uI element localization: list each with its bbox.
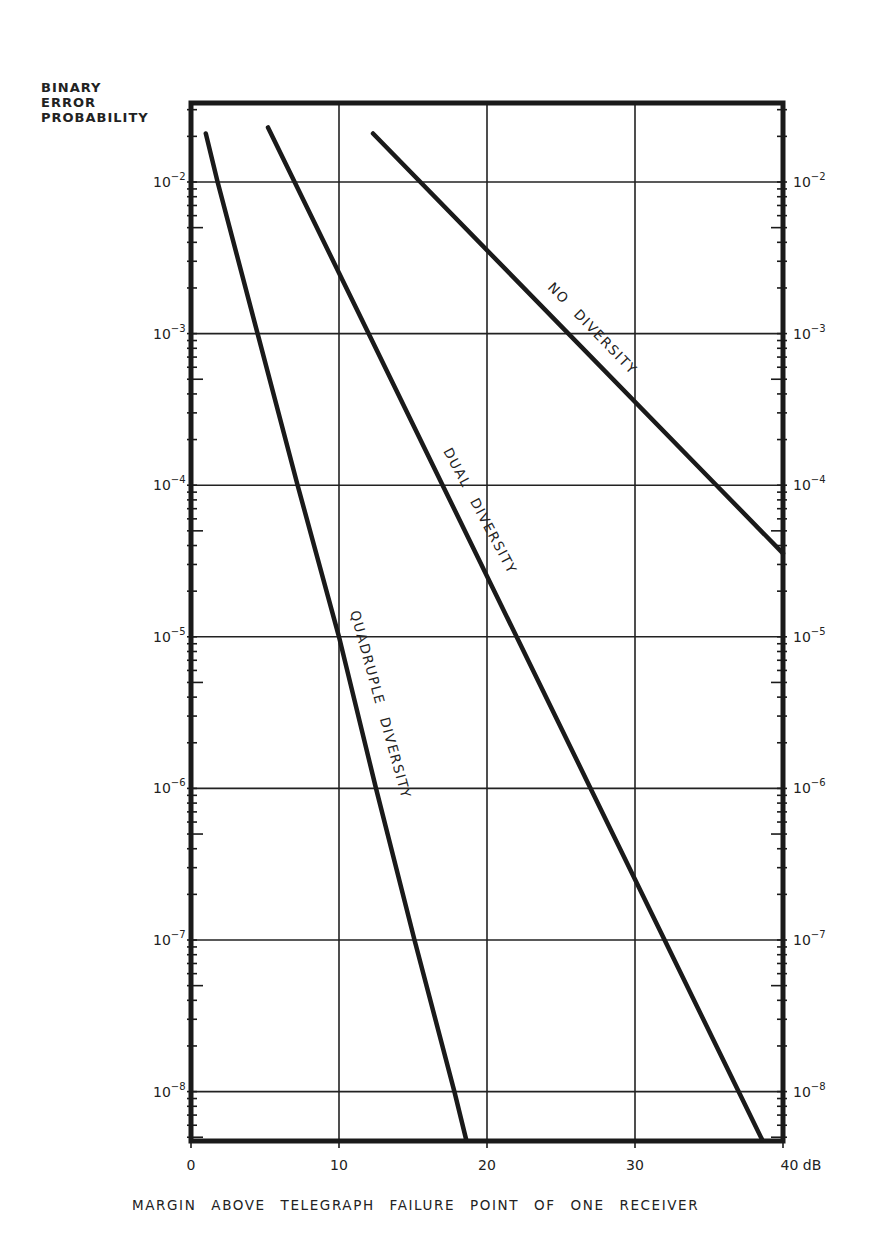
y-tick-label-left: 10−3: [153, 323, 186, 342]
y-tick-label-left: 10−5: [153, 626, 186, 645]
x-tick-label: 10: [330, 1157, 348, 1173]
x-tick-label: 20: [478, 1157, 496, 1173]
x-tick-label: 30: [626, 1157, 644, 1173]
x-tick-label: 40 dB: [781, 1157, 822, 1173]
y-tick-label-left: 10−6: [153, 777, 186, 796]
curve-no-diversity: [373, 134, 783, 554]
curve-label: DUAL DIVERSITY: [440, 445, 520, 577]
data-curves: [206, 127, 783, 1140]
x-tick-label: 0: [187, 1157, 196, 1173]
y-tick-label-right: 10−4: [793, 474, 826, 493]
grid-lines: [191, 103, 783, 1141]
y-tick-label-right: 10−7: [793, 929, 826, 948]
y-tick-label-right: 10−6: [793, 777, 826, 796]
y-tick-label-left: 10−2: [153, 171, 186, 190]
y-tick-labels-left: 10−210−310−410−510−610−710−8: [153, 171, 186, 1100]
curve-labels: NO DIVERSITYDUAL DIVERSITYQUADRUPLE DIVE…: [347, 279, 641, 801]
curve-label: NO DIVERSITY: [545, 279, 641, 378]
chart-plot: 10−210−310−410−510−610−710−8 10−210−310−…: [0, 0, 872, 1249]
y-tick-label-right: 10−8: [793, 1081, 826, 1100]
y-tick-labels-right: 10−210−310−410−510−610−710−8: [793, 171, 826, 1100]
x-tick-labels: 010203040 dB: [187, 1157, 822, 1173]
y-tick-label-left: 10−7: [153, 929, 186, 948]
y-tick-label-right: 10−5: [793, 626, 826, 645]
y-tick-label-right: 10−2: [793, 171, 826, 190]
y-tick-label-left: 10−8: [153, 1081, 186, 1100]
y-tick-label-left: 10−4: [153, 474, 186, 493]
y-tick-label-right: 10−3: [793, 323, 826, 342]
x-axis-title: MARGIN ABOVE TELEGRAPH FAILURE POINT OF …: [132, 1197, 699, 1213]
